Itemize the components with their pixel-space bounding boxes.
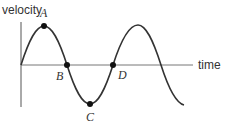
velocity-time-diagram: velocity time A B C D — [0, 0, 226, 126]
point-c-label: C — [86, 110, 95, 124]
time-axis-label: time — [198, 58, 221, 72]
point-a-label: A — [39, 6, 48, 20]
point-d-marker — [110, 62, 116, 68]
point-d-label: D — [117, 68, 127, 82]
point-a-marker — [41, 23, 47, 29]
velocity-axis-label: velocity — [2, 3, 42, 17]
point-c-marker — [87, 101, 93, 107]
point-b-marker — [64, 62, 70, 68]
point-b-label: B — [56, 69, 64, 83]
